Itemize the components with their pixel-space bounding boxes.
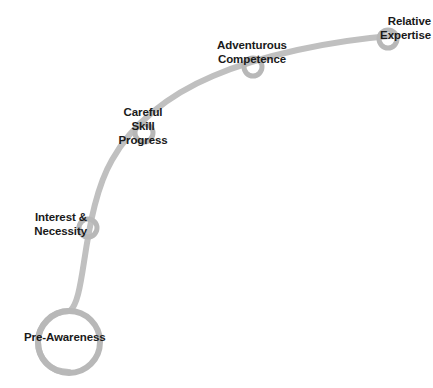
diagram-canvas: Pre-AwarenessInterest & NecessityCareful… — [0, 0, 433, 388]
stage-label-pre-awareness: Pre-Awareness — [24, 330, 116, 344]
node-ring-group — [38, 30, 397, 373]
stage-label-adventurous-competence: Adventurous Competence — [195, 38, 309, 66]
stage-label-interest-necessity: Interest & Necessity — [0, 210, 87, 238]
stage-label-careful-skill-progress: Careful Skill Progress — [103, 105, 183, 147]
stage-label-relative-expertise: Relative Expertise — [355, 14, 431, 42]
